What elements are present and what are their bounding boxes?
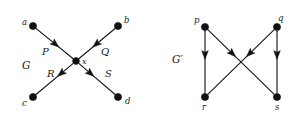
graph-label-Gprime: G′: [172, 54, 183, 65]
node-label-p: p: [194, 16, 199, 25]
graph-diagram-canvas: [0, 0, 300, 120]
node-Gprime-q[interactable]: [273, 23, 280, 30]
edge-label-R: R: [47, 69, 55, 79]
node-Gprime-r[interactable]: [201, 93, 208, 100]
edge-label-S: S: [105, 69, 112, 79]
node-label-s: s: [275, 103, 279, 112]
edge-Gprime-qs: [274, 31, 281, 93]
node-G-d[interactable]: [114, 93, 121, 100]
edge-label-P: P: [42, 47, 49, 57]
node-G-a[interactable]: [29, 22, 36, 29]
graph-label-G: G: [22, 60, 30, 71]
node-Gprime-s[interactable]: [273, 93, 280, 100]
node-label-q: q: [278, 14, 283, 23]
edge-G-Q: [79, 29, 115, 59]
arrowhead-G-P: [50, 39, 59, 47]
node-label-c: c: [22, 99, 27, 108]
edge-Gprime-pr: [202, 31, 209, 93]
node-label-a: a: [22, 18, 27, 27]
node-label-r: r: [202, 103, 206, 112]
figure-container: GPQRSabcdxG′pqrs: [0, 0, 300, 120]
edge-label-Q: Q: [101, 47, 109, 57]
node-G-b[interactable]: [114, 22, 121, 29]
node-G-x[interactable]: [73, 58, 80, 65]
node-label-x: x: [82, 58, 87, 66]
node-Gprime-p[interactable]: [201, 23, 208, 30]
node-G-c[interactable]: [29, 93, 36, 100]
nodes-layer: [29, 22, 280, 100]
node-label-b: b: [124, 16, 129, 25]
node-label-d: d: [125, 97, 130, 106]
